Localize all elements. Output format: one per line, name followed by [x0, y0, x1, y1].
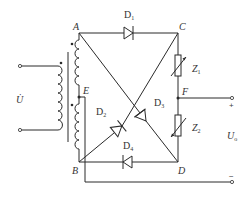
label-z1: Z1 — [192, 63, 201, 75]
label-d3: D3 — [154, 97, 164, 109]
primary-winding — [18, 62, 62, 132]
input-terminal-top — [18, 64, 21, 67]
label-output-voltage: Uo — [227, 130, 237, 142]
diode-d1-icon — [124, 26, 133, 40]
primary-coil-icon — [58, 66, 62, 130]
label-d2: D2 — [96, 106, 106, 118]
secondary-polarity-dot-bottom — [71, 104, 74, 107]
secondary-coil-upper-icon — [75, 40, 79, 85]
label-node-e: E — [82, 85, 89, 96]
label-node-c: C — [179, 21, 186, 32]
label-node-f: F — [181, 86, 189, 97]
diode-d3-icon — [134, 109, 151, 125]
primary-polarity-dot — [60, 62, 63, 65]
bottom-branch — [79, 155, 178, 169]
bridge-rectifier-diagram: A C B D E F D1 D2 D3 D4 Z1 Z2 U̇ Uo + − — [0, 0, 251, 198]
impedance-z1-icon — [171, 55, 186, 76]
label-node-a: A — [72, 21, 80, 32]
right-branch — [171, 33, 234, 162]
diode-d4-icon — [123, 155, 132, 169]
impedance-z2-icon — [171, 115, 186, 137]
label-d4: D4 — [123, 140, 133, 152]
label-output-minus: − — [229, 172, 234, 181]
input-terminal-bottom — [18, 128, 21, 131]
label-z2: Z2 — [192, 122, 201, 134]
secondary-polarity-dot-top — [71, 43, 74, 46]
label-node-d: D — [177, 165, 186, 176]
top-branch — [79, 26, 178, 40]
label-output-plus: + — [229, 101, 234, 110]
label-node-b: B — [72, 165, 78, 176]
output-terminal-plus — [230, 96, 233, 99]
label-d1: D1 — [124, 9, 134, 21]
secondary-coil-lower-icon — [75, 104, 79, 149]
label-input-voltage: U̇ — [16, 94, 24, 105]
